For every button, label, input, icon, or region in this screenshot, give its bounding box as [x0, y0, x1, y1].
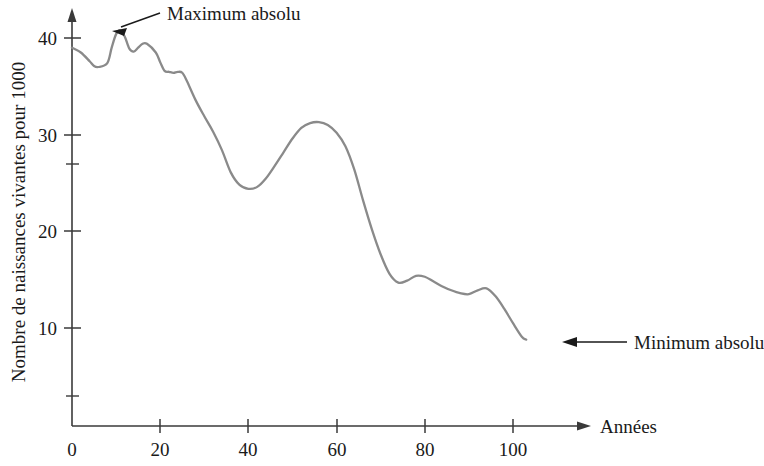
- x-tick-label-40: 40: [239, 439, 258, 460]
- y-tick-label-20: 20: [38, 221, 57, 242]
- y-tick-label-30: 30: [38, 125, 57, 146]
- x-tick-label-80: 80: [416, 439, 435, 460]
- x-tick-label-0: 0: [67, 439, 77, 460]
- annotation-maximum-label: Maximum absolu: [167, 3, 301, 24]
- y-tick-label-10: 10: [38, 318, 57, 339]
- x-axis-tick-labels: 0 20 40 60 80 100: [67, 439, 527, 460]
- x-tick-label-60: 60: [328, 439, 347, 460]
- x-tick-label-20: 20: [151, 439, 170, 460]
- x-axis-arrowhead: [577, 422, 591, 431]
- y-axis-tick-labels: 40 30 20 10: [38, 28, 57, 339]
- x-tick-label-100: 100: [499, 439, 528, 460]
- annotation-maximum: Maximum absolu: [112, 3, 301, 36]
- annotation-maximum-leader: [121, 13, 160, 27]
- y-axis: [68, 8, 77, 426]
- annotation-minimum-label: Minimum absolu: [634, 332, 764, 353]
- data-series-line: [72, 30, 526, 339]
- annotation-minimum: Minimum absolu: [562, 332, 764, 353]
- y-axis-title: Nombre de naissances vivantes pour 1000: [8, 62, 29, 382]
- y-tick-label-40: 40: [38, 28, 57, 49]
- chart-svg: 40 30 20 10 0 20 40 60 80 100 Nombre de …: [0, 0, 764, 466]
- y-axis-arrowhead: [68, 8, 77, 22]
- chart-figure: 40 30 20 10 0 20 40 60 80 100 Nombre de …: [0, 0, 764, 466]
- x-axis-title: Années: [600, 416, 657, 437]
- annotation-minimum-arrowhead: [562, 337, 577, 347]
